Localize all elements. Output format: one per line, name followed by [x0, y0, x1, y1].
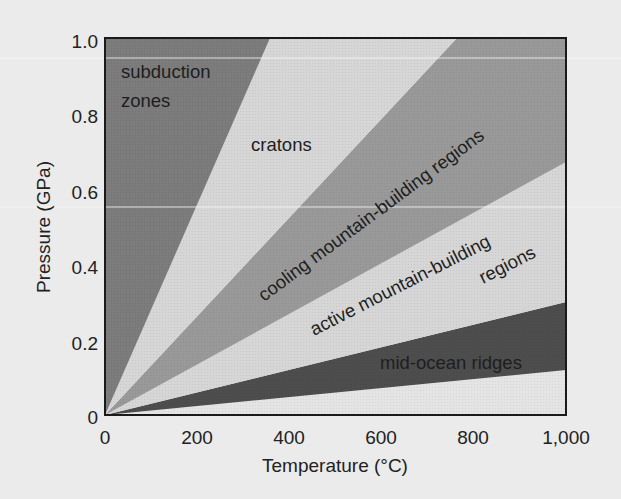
x-tick-label: 200	[181, 427, 213, 448]
label-cratons: cratons	[251, 134, 312, 155]
y-tick-label: 0	[87, 407, 98, 428]
y-tick-label: 1.0	[72, 31, 98, 52]
x-tick-label: 600	[365, 427, 397, 448]
chart-svg: subduction zones cratons cooling mountai…	[0, 0, 621, 499]
y-axis: 1.0 0.8 0.6 0.4 0.2 0 Pressure (GPa)	[33, 31, 98, 428]
x-tick-label: 1,000	[542, 427, 590, 448]
pressure-temperature-chart: subduction zones cratons cooling mountai…	[0, 0, 621, 499]
y-axis-title: Pressure (GPa)	[33, 161, 54, 293]
label-subduction-line2: zones	[121, 90, 170, 111]
x-tick-label: 0	[100, 427, 111, 448]
y-tick-label: 0.2	[72, 333, 98, 354]
label-mid-ocean-ridges: mid-ocean ridges	[380, 352, 522, 373]
y-tick-label: 0.4	[72, 257, 99, 278]
x-axis-title: Temperature (°C)	[262, 455, 408, 476]
x-tick-label: 400	[273, 427, 305, 448]
y-tick-label: 0.8	[72, 106, 98, 127]
plot-area: subduction zones cratons cooling mountai…	[105, 38, 566, 415]
y-tick-label: 0.6	[72, 182, 98, 203]
x-tick-label: 800	[457, 427, 489, 448]
x-axis: 0 200 400 600 800 1,000 Temperature (°C)	[100, 427, 590, 476]
label-subduction-line1: subduction	[121, 61, 210, 82]
